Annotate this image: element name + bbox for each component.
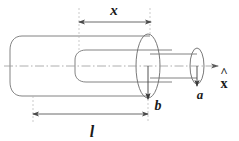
figure-canvas: x l b a ^ x bbox=[0, 0, 239, 141]
a-radius-label: a bbox=[197, 87, 204, 102]
b-radius-label: b bbox=[155, 98, 162, 113]
cylinder-diagram-svg: x l b a ^ x bbox=[0, 0, 239, 141]
l-dimension-label: l bbox=[90, 123, 95, 140]
x-hat-axis-label: x bbox=[221, 76, 228, 91]
x-dimension-label: x bbox=[109, 2, 118, 18]
